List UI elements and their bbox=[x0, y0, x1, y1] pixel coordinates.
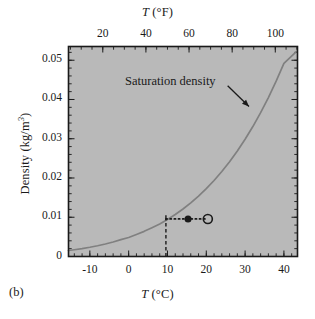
y-axis-title: Density (kg/m3) bbox=[18, 54, 33, 254]
bottom-axis-tick-label: 30 bbox=[225, 263, 265, 275]
top-axis-tick-label: 100 bbox=[255, 27, 295, 39]
top-axis-title-unit: (°F) bbox=[152, 5, 173, 20]
panel-label: (b) bbox=[9, 285, 24, 300]
top-axis-tick-label: 80 bbox=[212, 27, 252, 39]
saturation-density-annotation-label: Saturation density bbox=[125, 74, 216, 89]
y-axis-tick-label: 0 bbox=[18, 249, 62, 261]
bottom-axis-title: T (°C) bbox=[0, 287, 315, 302]
top-axis-title: T (°F) bbox=[0, 5, 315, 20]
bottom-axis-tick-label: -10 bbox=[70, 263, 110, 275]
top-axis-tick-label: 20 bbox=[83, 27, 123, 39]
bottom-axis-tick-label: 10 bbox=[147, 263, 187, 275]
y-axis-tick-label: 0.03 bbox=[18, 131, 62, 143]
y-axis-tick-label: 0.02 bbox=[18, 170, 62, 182]
y-axis-tick-label: 0.04 bbox=[18, 91, 62, 103]
y-axis-tick-label: 0.01 bbox=[18, 209, 62, 221]
bottom-axis-tick-label: 40 bbox=[264, 263, 304, 275]
y-axis-title-close: ) bbox=[18, 113, 32, 117]
top-axis-tick-label: 40 bbox=[126, 27, 166, 39]
bottom-axis-tick-label: 20 bbox=[186, 263, 226, 275]
top-axis-tick-label: 60 bbox=[169, 27, 209, 39]
top-axis-title-symbol: T bbox=[142, 5, 149, 20]
density-vs-temperature-figure: T (°F) T (°C) Density (kg/m3) (b) Satura… bbox=[0, 0, 315, 319]
actual-vapor-density-point bbox=[185, 215, 192, 222]
y-axis-title-exponent: 3 bbox=[16, 117, 26, 121]
bottom-axis-title-unit: (°C) bbox=[152, 287, 174, 301]
y-axis-tick-label: 0.05 bbox=[18, 52, 62, 64]
bottom-axis-tick-label: 0 bbox=[109, 263, 149, 275]
